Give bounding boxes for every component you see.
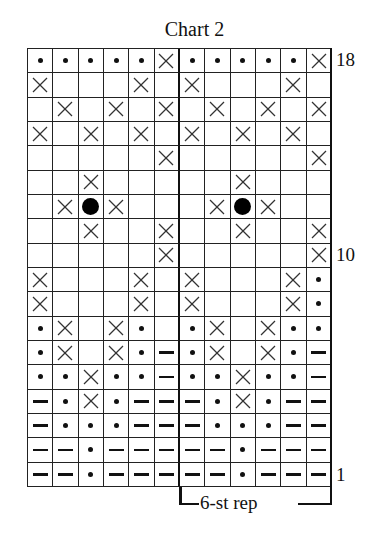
chart-cell <box>155 414 180 438</box>
blank-cell <box>155 292 178 315</box>
chart-cell <box>129 195 154 219</box>
cross-icon <box>155 146 178 169</box>
chart-cell <box>79 341 104 365</box>
dash-icon <box>155 365 178 388</box>
blank-cell <box>281 195 305 218</box>
dot-icon <box>281 341 305 364</box>
blank-cell <box>231 98 255 121</box>
chart-cell <box>79 244 104 268</box>
chart-cell <box>28 49 53 73</box>
blank-cell <box>205 244 229 267</box>
chart-cell <box>205 438 230 462</box>
chart-cell <box>129 463 154 487</box>
blank-cell <box>231 317 255 340</box>
chart-cell <box>180 171 205 195</box>
chart-cell <box>53 390 78 414</box>
chart-cell <box>205 244 230 268</box>
cross-icon <box>28 122 52 145</box>
chart-cell <box>79 268 104 292</box>
knitting-chart-grid <box>27 48 332 487</box>
chart-cell <box>281 171 306 195</box>
cross-icon <box>256 341 280 364</box>
chart-cell <box>53 268 78 292</box>
blank-cell <box>28 98 52 121</box>
chart-cell <box>205 122 230 146</box>
chart-cell <box>180 49 205 73</box>
chart-cell <box>256 317 281 341</box>
chart-cell <box>231 438 256 462</box>
blank-cell <box>28 195 52 218</box>
cross-icon <box>79 219 103 242</box>
chart-cell <box>205 317 230 341</box>
dot-icon <box>281 317 305 340</box>
chart-cell <box>28 414 53 438</box>
cross-icon <box>256 98 280 121</box>
chart-cell <box>79 463 104 487</box>
cross-icon <box>129 268 153 291</box>
dash-icon <box>256 463 280 486</box>
blank-cell <box>205 146 229 169</box>
blank-cell <box>307 171 331 194</box>
blank-cell <box>53 73 77 96</box>
chart-cell <box>53 341 78 365</box>
blank-cell <box>104 268 128 291</box>
cross-icon <box>205 317 229 340</box>
blank-cell <box>79 244 103 267</box>
blank-cell <box>104 146 128 169</box>
chart-cell <box>307 244 332 268</box>
chart-cell <box>180 317 205 341</box>
blank-cell <box>104 219 128 242</box>
dash-icon <box>205 438 229 461</box>
chart-cell <box>256 463 281 487</box>
row-number-1: 1 <box>336 464 346 486</box>
cross-icon <box>231 365 255 388</box>
chart-cell <box>129 390 154 414</box>
chart-cell <box>256 414 281 438</box>
dash-icon <box>129 414 153 437</box>
chart-cell <box>79 219 104 243</box>
cross-icon <box>53 317 77 340</box>
dot-icon <box>307 292 331 315</box>
chart-cell <box>79 73 104 97</box>
repeat-bracket-bottom-left <box>179 503 199 505</box>
blank-cell <box>231 292 255 315</box>
dot-icon <box>104 390 128 413</box>
dash-icon <box>307 414 331 437</box>
blank-cell <box>256 292 280 315</box>
dot-icon <box>281 49 305 72</box>
chart-cell <box>281 414 306 438</box>
chart-cell <box>104 463 129 487</box>
chart-cell <box>307 390 332 414</box>
cross-icon <box>281 122 305 145</box>
chart-cell <box>307 146 332 170</box>
dot-icon <box>79 438 103 461</box>
chart-cell <box>28 244 53 268</box>
dot-icon <box>53 414 77 437</box>
chart-cell <box>28 390 53 414</box>
dot-icon <box>256 49 280 72</box>
chart-cell <box>53 365 78 389</box>
dot-icon <box>256 390 280 413</box>
cross-icon <box>104 195 128 218</box>
blank-cell <box>28 219 52 242</box>
chart-cell <box>79 317 104 341</box>
chart-cell <box>205 98 230 122</box>
cross-icon <box>180 268 204 291</box>
blank-cell <box>256 122 280 145</box>
blank-cell <box>53 146 77 169</box>
dot-icon <box>129 49 153 72</box>
blank-cell <box>129 195 153 218</box>
chart-cell <box>281 219 306 243</box>
chart-cell <box>155 463 180 487</box>
chart-cell <box>155 341 180 365</box>
chart-cell <box>281 146 306 170</box>
chart-cell <box>53 438 78 462</box>
chart-cell <box>180 292 205 316</box>
chart-cell <box>231 244 256 268</box>
chart-cell <box>231 463 256 487</box>
blank-cell <box>231 244 255 267</box>
dot-icon <box>180 365 204 388</box>
chart-cell <box>28 98 53 122</box>
dash-icon <box>281 438 305 461</box>
dash-icon <box>281 390 305 413</box>
